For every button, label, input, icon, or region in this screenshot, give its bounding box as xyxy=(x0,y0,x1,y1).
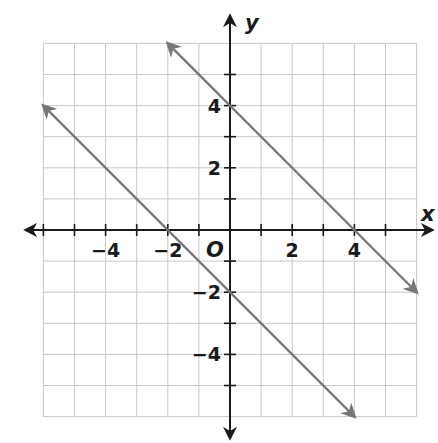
y-tick-label: −2 xyxy=(192,281,221,303)
x-tick-label: −4 xyxy=(91,239,120,261)
x-axis-label: x xyxy=(420,202,436,226)
coordinate-plane: −4−22442−2−4 x y O xyxy=(0,0,438,443)
y-tick-label: −4 xyxy=(192,343,221,365)
y-tick-label: 4 xyxy=(208,95,221,117)
x-tick-label: 2 xyxy=(286,239,299,261)
x-tick-label: 4 xyxy=(348,239,361,261)
axes xyxy=(26,16,432,438)
y-axis-label: y xyxy=(245,11,260,35)
x-tick-label: −2 xyxy=(153,239,182,261)
origin-label: O xyxy=(206,238,224,262)
y-tick-label: 2 xyxy=(208,157,221,179)
